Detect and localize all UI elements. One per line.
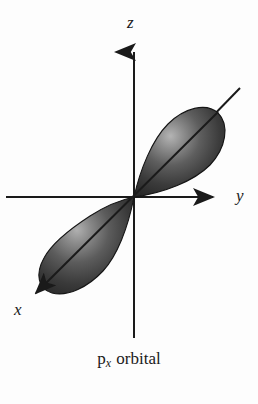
caption-symbol: p — [97, 349, 106, 368]
y-axis-label: y — [236, 187, 244, 204]
z-axis-label: z — [127, 14, 134, 31]
lower-left-lobe — [39, 197, 134, 294]
orbital-figure: z y x px orbital — [0, 0, 258, 404]
x-axis — [36, 112, 218, 293]
figure-caption: px orbital — [0, 348, 258, 371]
x-axis-label: x — [14, 301, 22, 318]
upper-right-lobe — [134, 107, 225, 197]
caption-text: orbital — [112, 349, 161, 368]
orbital-illustration — [0, 0, 258, 404]
